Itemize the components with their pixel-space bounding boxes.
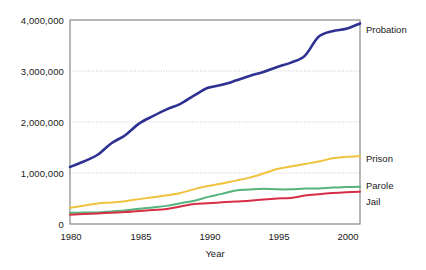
y-tick-0: 0 <box>0 219 64 230</box>
series-lines <box>70 23 360 214</box>
series-label-prison: Prison <box>366 153 393 164</box>
x-tick-1980: 1980 <box>51 231 91 242</box>
y-tick-4000000: 4,000,000 <box>0 15 64 26</box>
y-tick-1000000: 1,000,000 <box>0 168 64 179</box>
y-tick-3000000: 3,000,000 <box>0 66 64 77</box>
chart-container: 4,000,000 3,000,000 2,000,000 1,000,000 … <box>0 0 426 270</box>
series-label-probation: Probation <box>366 24 407 35</box>
series-label-jail: Jail <box>366 196 380 207</box>
series-line-probation <box>70 23 360 167</box>
x-tick-2000: 2000 <box>328 231 368 242</box>
x-tick-1985: 1985 <box>121 231 161 242</box>
x-tick-1990: 1990 <box>190 231 230 242</box>
series-line-prison <box>70 156 360 208</box>
x-tick-1995: 1995 <box>259 231 299 242</box>
y-tick-2000000: 2,000,000 <box>0 117 64 128</box>
x-axis-title: Year <box>195 248 235 259</box>
series-line-parole <box>70 187 360 213</box>
series-label-parole: Parole <box>366 180 393 191</box>
